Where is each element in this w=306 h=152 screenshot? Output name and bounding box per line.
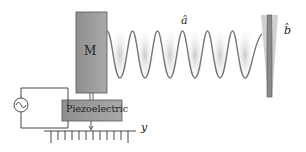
piezo-label: Piezoelectric <box>66 103 128 114</box>
mechanical-mirror <box>261 15 278 97</box>
mode-a-label: â <box>181 14 188 27</box>
diagram-canvas <box>0 0 306 152</box>
mass-label: M <box>84 44 96 58</box>
mode-b-label: b̂ <box>284 24 291 37</box>
ground-axis <box>44 131 136 143</box>
wave-glow <box>111 25 254 85</box>
axis-y-label: y <box>141 121 147 134</box>
